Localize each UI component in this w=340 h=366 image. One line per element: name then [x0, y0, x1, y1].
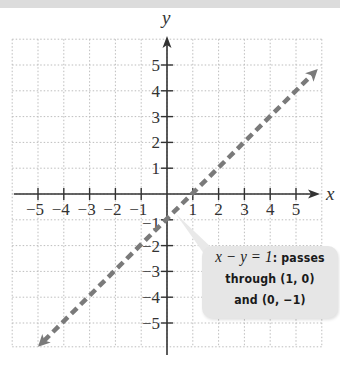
y-tick-label: 1: [152, 159, 161, 178]
y-tick-label: 4: [152, 82, 161, 101]
x-tick-label: −2: [103, 200, 121, 219]
x-tick-label: −5: [26, 200, 44, 219]
x-tick-label: 4: [266, 200, 275, 219]
y-tick-label: −5: [142, 314, 160, 333]
y-tick-label: −4: [142, 288, 161, 307]
x-tick-label: 3: [240, 200, 249, 219]
y-tick-label: 3: [152, 108, 161, 127]
callout-equation: x − y = 1: [215, 247, 273, 266]
annotation-callout: x − y = 1: passes through (1, 0) and (0,…: [202, 246, 338, 318]
x-tick-label: −3: [78, 200, 96, 219]
x-tick-label: 2: [214, 200, 223, 219]
callout-line-3: and (0, −1): [210, 289, 330, 310]
y-tick-label: 2: [152, 133, 161, 152]
y-tick-label: 5: [152, 56, 161, 75]
y-tick-label: −3: [142, 262, 160, 281]
x-tick-label: −4: [52, 200, 71, 219]
x-tick-label: 5: [292, 200, 301, 219]
callout-line-1-text: : passes: [273, 250, 325, 265]
x-axis-label: x: [325, 183, 335, 204]
x-tick-label: 1: [189, 200, 198, 219]
callout-line-1: x − y = 1: passes: [210, 246, 330, 268]
y-axis-label: y: [160, 7, 171, 28]
callout-line-2: through (1, 0): [210, 268, 330, 289]
